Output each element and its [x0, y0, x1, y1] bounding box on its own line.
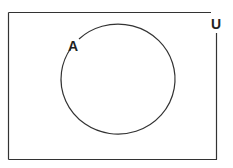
universal-set-label: U	[211, 16, 221, 32]
set-a-label: A	[68, 38, 78, 54]
universal-set-rectangle	[9, 13, 218, 160]
venn-diagram: A U	[0, 0, 233, 168]
